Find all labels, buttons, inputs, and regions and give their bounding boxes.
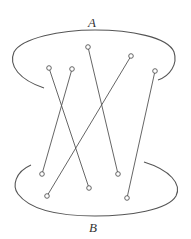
node-a3 bbox=[86, 45, 91, 50]
node-b2 bbox=[45, 194, 50, 199]
node-a4 bbox=[129, 54, 134, 59]
label-a: A bbox=[87, 15, 96, 30]
label-b: B bbox=[89, 220, 97, 235]
set-b-boundary bbox=[15, 162, 177, 216]
node-b5 bbox=[125, 196, 130, 201]
node-b4 bbox=[116, 172, 121, 177]
edge-a3-b4 bbox=[88, 47, 118, 174]
node-b1 bbox=[40, 172, 45, 177]
set-a-boundary bbox=[12, 30, 175, 88]
bipartite-diagram: A B bbox=[0, 0, 191, 239]
edge-a2-b1 bbox=[42, 69, 72, 174]
node-b3 bbox=[87, 186, 92, 191]
node-a2 bbox=[70, 67, 75, 72]
edges bbox=[42, 47, 155, 198]
node-a5 bbox=[153, 69, 158, 74]
nodes bbox=[40, 45, 158, 201]
node-a1 bbox=[47, 66, 52, 71]
edge-a5-b5 bbox=[127, 71, 155, 198]
